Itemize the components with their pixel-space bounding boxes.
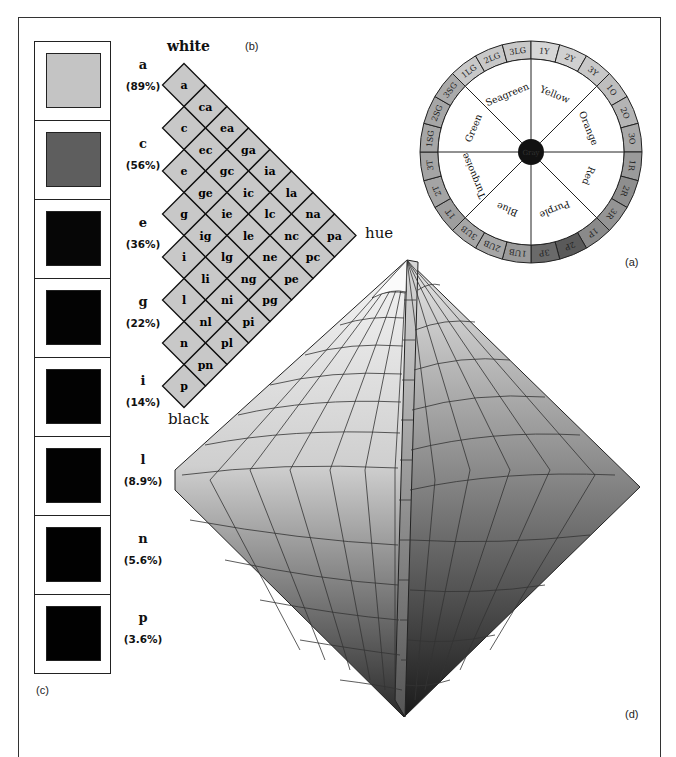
caption-d: (d) xyxy=(625,708,638,720)
